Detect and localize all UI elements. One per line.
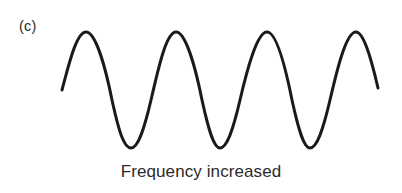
figure-caption: Frequency increased bbox=[0, 162, 402, 182]
sine-wave-curve bbox=[62, 32, 378, 148]
figure-container: (c) Frequency increased bbox=[0, 0, 402, 193]
